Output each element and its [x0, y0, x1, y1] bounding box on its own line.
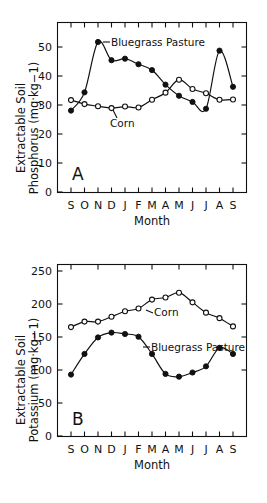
data-point	[109, 58, 114, 63]
panel-b-ytick-100: 100	[31, 364, 52, 377]
xtick-label: M	[147, 443, 157, 456]
panel-b-svg: Extractable Soil Potassium (mg·kg−1) 250…	[0, 250, 267, 503]
figure-root: Extractable Soil Phosphorus (mg·kg−1) 50…	[0, 0, 267, 503]
panel-b-corn-leader	[146, 310, 153, 313]
data-point	[231, 97, 236, 102]
panel-a-ytick-40: 40	[38, 70, 52, 83]
panel-b-letter: B	[72, 409, 84, 429]
data-point	[123, 309, 128, 314]
data-point	[82, 351, 87, 356]
data-point	[69, 98, 74, 103]
data-point	[217, 97, 222, 102]
xtick-label: J	[122, 199, 126, 212]
panel-a-bluegrass-label: Bluegrass Pasture	[111, 36, 205, 48]
xtick-label: D	[107, 443, 115, 456]
data-point	[136, 334, 141, 339]
data-point	[203, 106, 208, 111]
xtick-label: S	[230, 199, 237, 212]
data-point	[109, 314, 114, 319]
data-point	[217, 48, 222, 53]
data-point	[177, 290, 182, 295]
data-point	[176, 93, 181, 98]
panel-b-potassium: Extractable Soil Potassium (mg·kg−1) 250…	[0, 250, 267, 503]
xtick-label: A	[216, 199, 224, 212]
xtick-label: J	[203, 199, 207, 212]
xtick-label: A	[162, 199, 170, 212]
data-point	[163, 295, 168, 300]
data-point	[163, 90, 168, 95]
xtick-label: F	[135, 199, 141, 212]
data-point	[95, 335, 100, 340]
xtick-label: J	[122, 443, 126, 456]
data-point	[69, 325, 74, 330]
xtick-label: A	[216, 443, 224, 456]
data-point	[163, 82, 168, 87]
xtick-label: A	[162, 443, 170, 456]
panel-a-xtick-labels: SONDJFMAMJJAS	[68, 199, 237, 212]
xtick-label: M	[174, 443, 184, 456]
data-point	[68, 372, 73, 377]
panel-b-corn-label: Corn	[154, 306, 179, 318]
xtick-label: N	[94, 199, 102, 212]
data-point	[176, 374, 181, 379]
data-point	[95, 39, 100, 44]
data-point	[149, 68, 154, 73]
data-point	[150, 297, 155, 302]
data-point	[230, 84, 235, 89]
panel-b-bluegrass-label: Bluegrass Pasture	[151, 341, 245, 353]
xtick-label: O	[80, 443, 89, 456]
panel-b-ytick-200: 200	[31, 298, 52, 311]
data-point	[177, 77, 182, 82]
data-point	[190, 300, 195, 305]
xtick-label: D	[107, 199, 115, 212]
panel-a-ytick-0: 0	[45, 186, 52, 199]
data-point	[203, 364, 208, 369]
panel-b-y-tickmarks	[58, 271, 63, 436]
panel-b-ylabel-line1: Extractable Soil	[14, 335, 28, 425]
panel-a-letter: A	[72, 164, 84, 184]
data-point	[231, 324, 236, 329]
xtick-label: M	[147, 199, 157, 212]
xtick-label: S	[68, 443, 75, 456]
data-point	[136, 62, 141, 67]
data-point	[109, 330, 114, 335]
xtick-label: J	[203, 443, 207, 456]
panel-a-phosphorus: Extractable Soil Phosphorus (mg·kg−1) 50…	[0, 0, 267, 250]
xtick-label: N	[94, 443, 102, 456]
panel-a-corn-label: Corn	[110, 117, 135, 129]
panel-b-ytick-0: 0	[45, 430, 52, 443]
data-point	[217, 316, 222, 321]
xtick-label: S	[230, 443, 237, 456]
data-point	[96, 319, 101, 324]
data-point	[96, 104, 101, 109]
data-point	[190, 370, 195, 375]
panel-b-xlabel: Month	[134, 458, 170, 472]
panel-b-xtick-labels: SONDJFMAMJJAS	[68, 443, 237, 456]
data-point	[163, 371, 168, 376]
data-point	[190, 99, 195, 104]
xtick-label: M	[174, 199, 184, 212]
panel-a-xlabel: Month	[134, 214, 170, 228]
data-point	[204, 310, 209, 315]
xtick-label: J	[190, 443, 194, 456]
data-point	[150, 97, 155, 102]
panel-b-ytick-250: 250	[31, 265, 52, 278]
xtick-label: F	[135, 443, 141, 456]
data-point	[82, 102, 87, 107]
data-point	[136, 105, 141, 110]
panel-a-series-group	[68, 39, 235, 113]
data-point	[82, 319, 87, 324]
data-point	[68, 108, 73, 113]
data-point	[136, 306, 141, 311]
xtick-label: O	[80, 199, 89, 212]
panel-a-svg: Extractable Soil Phosphorus (mg·kg−1) 50…	[0, 0, 267, 250]
data-point	[109, 106, 114, 111]
panel-b-ytick-150: 150	[31, 331, 52, 344]
panel-b-series-group	[68, 290, 235, 379]
panel-a-y-tickmarks	[58, 47, 63, 192]
panel-b-ytick-50: 50	[38, 397, 52, 410]
xtick-label: S	[68, 199, 75, 212]
data-point	[122, 331, 127, 336]
data-point	[190, 86, 195, 91]
panel-a-ylabel-line1: Extractable Soil	[14, 83, 28, 173]
